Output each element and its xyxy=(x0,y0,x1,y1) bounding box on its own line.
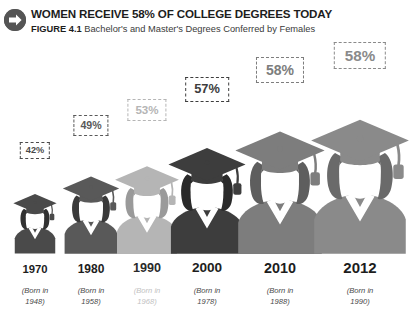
born-line-2: 1968) xyxy=(134,296,161,307)
born-label-2012: (Born in1990) xyxy=(347,285,374,307)
born-label-1970: (Born in1948) xyxy=(22,285,49,307)
born-line-1: (Born in xyxy=(347,285,374,296)
born-line-2: 1958) xyxy=(78,296,105,307)
born-line-1: (Born in xyxy=(134,285,161,296)
born-line-2: 1978) xyxy=(194,296,221,307)
born-label-2000: (Born in1978) xyxy=(194,285,221,307)
year-label-1970: 1970 xyxy=(22,264,47,275)
figure-caption: Bachelor's and Master's Degrees Conferre… xyxy=(84,24,315,34)
born-label-1980: (Born in1958) xyxy=(78,285,105,307)
born-line-1: (Born in xyxy=(267,285,294,296)
year-label-2010: 2010 xyxy=(264,261,296,275)
page-title: WOMEN RECEIVE 58% OF COLLEGE DEGREES TOD… xyxy=(31,7,332,20)
born-line-2: 1990) xyxy=(347,296,374,307)
figure-subtitle: FIGURE 4.1 Bachelor's and Master's Degre… xyxy=(31,24,315,34)
born-line-2: 1988) xyxy=(267,296,294,307)
percent-label-2012: 58% xyxy=(334,42,386,69)
chart-column-2010: 58% 2010(Born in1988) xyxy=(245,46,315,311)
graduate-figure-1970 xyxy=(12,188,58,254)
infographic-root: WOMEN RECEIVE 58% OF COLLEGE DEGREES TOD… xyxy=(0,0,419,311)
graduate-figure-2012 xyxy=(308,107,412,254)
born-line-1: (Born in xyxy=(194,285,221,296)
percent-label-1980: 49% xyxy=(73,115,108,136)
year-label-2012: 2012 xyxy=(343,260,376,275)
born-line-1: (Born in xyxy=(78,285,105,296)
year-label-1980: 1980 xyxy=(78,263,105,275)
born-line-2: 1948) xyxy=(22,296,49,307)
year-label-2000: 2000 xyxy=(192,261,222,275)
percent-label-1990: 53% xyxy=(127,99,166,121)
figure-number: FIGURE 4.1 xyxy=(31,24,82,34)
born-label-1990: (Born in1968) xyxy=(134,285,161,307)
year-label-1990: 1990 xyxy=(133,262,161,275)
chart-column-2012: 58% 2012(Born in1990) xyxy=(325,46,395,311)
arrow-right-circle-icon xyxy=(4,9,26,31)
born-line-1: (Born in xyxy=(22,285,49,296)
percent-label-2010: 58% xyxy=(256,57,304,83)
percent-label-2000: 57% xyxy=(185,77,229,102)
born-label-2010: (Born in1988) xyxy=(267,285,294,307)
percent-label-1970: 42% xyxy=(20,142,50,159)
header: WOMEN RECEIVE 58% OF COLLEGE DEGREES TOD… xyxy=(0,0,419,46)
chart-column-2000: 57% 2000(Born in1978) xyxy=(172,46,242,311)
